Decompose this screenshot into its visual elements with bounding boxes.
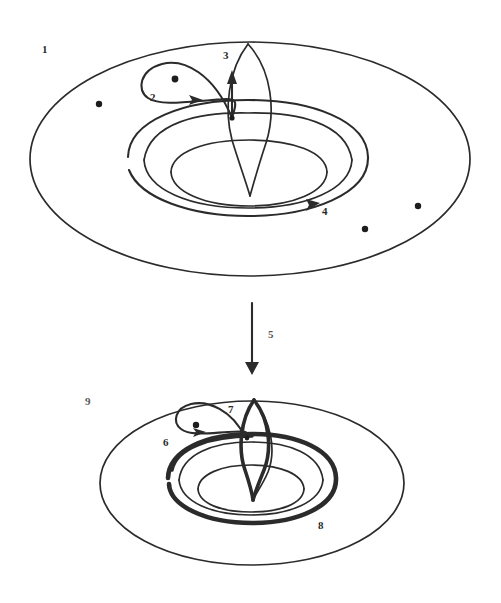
- figure-label-4: 4: [322, 206, 328, 217]
- lower-torus-hole-far-rim: [179, 442, 323, 480]
- lower-torus-outer-outline: [100, 401, 404, 565]
- lower-meridian-loop-left-7: [241, 400, 254, 500]
- figure-label-5: 5: [268, 329, 274, 340]
- lower-torus-group: [100, 400, 404, 565]
- upper-torus-hole-inner-lip-top: [171, 140, 327, 172]
- figure-label-7: 7: [228, 404, 234, 415]
- figure-label-3: 3: [223, 50, 229, 61]
- torus-diagram-figure: 1 2 3 4 5 6 7 8 9: [0, 0, 501, 603]
- upper-marked-point: [362, 226, 368, 232]
- figure-canvas: [0, 0, 501, 603]
- transform-arrow-group: [245, 303, 259, 375]
- figure-label-9: 9: [85, 396, 91, 407]
- figure-label-2: 2: [150, 92, 156, 103]
- upper-marked-point: [415, 203, 421, 209]
- upper-longitude-loop-4: [128, 100, 368, 216]
- figure-label-6: 6: [163, 437, 169, 448]
- lower-marked-point-in-loop: [193, 422, 199, 428]
- upper-torus-hole-far-rim: [144, 113, 352, 160]
- upper-marked-point-in-loop: [172, 76, 179, 83]
- upper-torus-group: [30, 42, 470, 276]
- upper-torus-outer-outline: [30, 42, 470, 276]
- figure-label-8: 8: [318, 520, 324, 531]
- downward-arrow-head: [245, 362, 259, 375]
- upper-meridian-loop-right-3: [248, 44, 271, 196]
- lower-loop-crossing-node: [245, 436, 250, 441]
- upper-marked-point: [96, 101, 102, 107]
- figure-label-1: 1: [42, 44, 48, 55]
- upper-loop-crossing-node: [229, 115, 234, 120]
